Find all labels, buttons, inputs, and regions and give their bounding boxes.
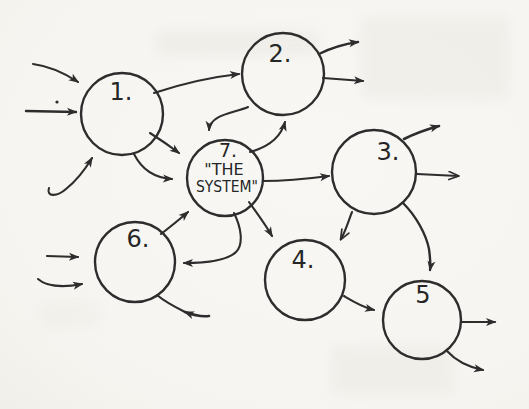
edge-7-to-6 [184, 213, 241, 263]
edge-1-to-7-lower [134, 154, 172, 179]
edge-into-6-bottom-tail [185, 312, 209, 316]
node-7-the-system-label: SYSTEM" [196, 178, 258, 196]
edge-3-out-upper-right [404, 126, 439, 139]
edge-into-6-lower-left [38, 279, 82, 286]
node-3: 3. [332, 130, 416, 214]
edge-7-to-4 [249, 202, 272, 236]
edge-1-to-2 [154, 74, 239, 93]
edge-4-to-5 [344, 296, 374, 310]
node-1-label: 1. [110, 78, 133, 106]
edges-layer [26, 42, 495, 370]
edge-2-out-lower [323, 78, 363, 81]
edge-3-to-5 [403, 203, 430, 270]
node-3-circle [332, 130, 416, 214]
node-5-label: 5 [415, 281, 430, 309]
edge-1-to-7-upper [150, 133, 179, 153]
stray-marks-layer [55, 100, 58, 103]
node-7-the-system: 7."THESYSTEM" [187, 139, 263, 216]
node-7-the-system-label: "THE [204, 160, 243, 179]
scanned-paper-page: 1.2.3.4.56.7."THESYSTEM" [0, 0, 529, 409]
node-4-label: 4. [292, 246, 315, 274]
edge-5-out-lower-right [447, 351, 483, 370]
edge-into-1-bottom-hook [48, 158, 92, 195]
node-4: 4. [265, 240, 345, 320]
node-7-the-system-label: 7. [219, 139, 237, 161]
edge-into-1-top-left [33, 64, 78, 82]
node-1: 1. [81, 73, 163, 155]
edge-into-6-upper-left [47, 256, 78, 257]
edge-3-out-right [417, 174, 458, 176]
edge-6-to-7 [161, 212, 188, 234]
diagram-canvas: 1.2.3.4.56.7."THESYSTEM" [0, 0, 529, 409]
node-5: 5 [383, 281, 461, 359]
edge-3-to-4 [341, 212, 352, 239]
node-3-label: 3. [377, 138, 400, 166]
edge-7-to-2 [250, 122, 285, 152]
node-6: 6. [95, 222, 175, 302]
ink-dot [55, 100, 58, 103]
edge-7-to-3 [263, 176, 329, 181]
node-2: 2. [242, 33, 324, 115]
nodes-layer: 1.2.3.4.56.7."THESYSTEM" [81, 33, 461, 359]
edge-into-6-bottom-line [157, 295, 185, 312]
edge-into-1-left [26, 111, 76, 112]
edge-2-to-7 [209, 107, 248, 130]
node-6-label: 6. [127, 225, 150, 253]
node-2-label: 2. [269, 40, 292, 68]
edge-2-out-upper [319, 42, 358, 54]
